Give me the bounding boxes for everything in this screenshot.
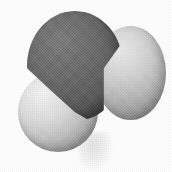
molecular-model-image: [0, 0, 172, 172]
